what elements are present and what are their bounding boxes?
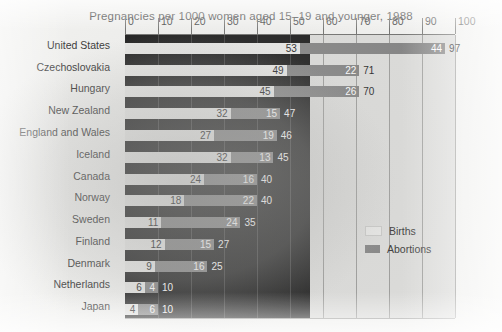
value-abortions: 6 (138, 303, 155, 316)
category-label-united-states: United States (47, 39, 110, 51)
x-tick-label-80: 80 (389, 15, 404, 27)
gridline-90 (422, 35, 423, 318)
bar-england-and-wales: 2719 (125, 130, 277, 141)
category-label-new-zealand: New Zealand (48, 104, 110, 116)
bar-japan: 46 (125, 304, 158, 315)
bar-iceland: 3213 (125, 152, 274, 163)
legend-label-births: Births (389, 225, 416, 237)
category-label-canada: Canada (73, 170, 110, 182)
category-label-finland: Finland (76, 235, 110, 247)
value-abortions: 22 (287, 64, 357, 77)
x-axis-bottom-line (125, 318, 455, 319)
value-total: 10 (162, 281, 173, 294)
value-abortions: 13 (231, 151, 271, 164)
value-total: 40 (261, 173, 272, 186)
value-births: 45 (125, 85, 271, 98)
value-births: 49 (125, 64, 284, 77)
value-abortions: 44 (300, 42, 442, 55)
value-births: 27 (125, 129, 211, 142)
bar-czechoslovakia: 4922 (125, 65, 359, 76)
value-births: 4 (125, 303, 135, 316)
chart-figure: Pregnancies per 1000 women aged 15–19 an… (0, 0, 502, 332)
value-total: 27 (218, 238, 229, 251)
value-births: 18 (125, 194, 181, 207)
gridline-50 (290, 35, 291, 318)
value-abortions: 26 (274, 85, 357, 98)
value-abortions: 24 (161, 216, 237, 229)
legend-swatch-births (365, 226, 382, 236)
value-births: 24 (125, 173, 201, 186)
bar-sweden: 1124 (125, 217, 241, 228)
value-births: 53 (125, 42, 297, 55)
value-total: 46 (281, 129, 292, 142)
value-births: 32 (125, 151, 228, 164)
legend-item-births[interactable]: Births (365, 225, 431, 237)
value-births: 6 (125, 281, 142, 294)
x-tick-label-20: 20 (191, 15, 206, 27)
value-births: 11 (125, 216, 158, 229)
category-label-england-and-wales: England and Wales (19, 126, 110, 138)
value-abortions: 19 (214, 129, 274, 142)
plot-area: 0102030405060708090100 53449749227145267… (125, 35, 455, 318)
legend-item-abortions[interactable]: Abortions (365, 243, 431, 255)
value-births: 32 (125, 107, 228, 120)
bar-finland: 1215 (125, 239, 214, 250)
value-abortions: 16 (155, 260, 205, 273)
bar-canada: 2416 (125, 174, 257, 185)
value-abortions: 16 (204, 173, 254, 186)
x-tick-label-50: 50 (290, 15, 305, 27)
bar-denmark: 916 (125, 261, 208, 272)
value-total: 10 (162, 303, 173, 316)
legend-label-abortions: Abortions (387, 243, 431, 255)
value-total: 25 (212, 260, 223, 273)
value-births: 12 (125, 238, 162, 251)
gridline-60 (323, 35, 324, 318)
value-total: 40 (261, 194, 272, 207)
value-abortions: 15 (231, 107, 278, 120)
value-abortions: 15 (165, 238, 212, 251)
category-label-sweden: Sweden (72, 213, 110, 225)
bar-hungary: 4526 (125, 86, 359, 97)
value-total: 71 (363, 64, 374, 77)
gridline-40 (257, 35, 258, 318)
gridline-70 (356, 35, 357, 318)
category-axis-labels: United StatesCzechoslovakiaHungaryNew Ze… (0, 35, 120, 318)
category-label-japan: Japan (81, 300, 110, 312)
gridline-80 (389, 35, 390, 318)
bar-norway: 1822 (125, 195, 257, 206)
bar-new-zealand: 3215 (125, 108, 280, 119)
bar-netherlands: 64 (125, 282, 158, 293)
chart-legend: BirthsAbortions (365, 225, 431, 261)
value-total: 97 (449, 42, 460, 55)
value-abortions: 4 (145, 281, 155, 294)
bar-united-states: 5344 (125, 43, 445, 54)
value-total: 70 (363, 85, 374, 98)
gridline-100 (455, 35, 456, 318)
x-tick-label-10: 10 (158, 15, 173, 27)
category-label-hungary: Hungary (70, 82, 110, 94)
x-tick-label-60: 60 (323, 15, 338, 27)
x-tick-label-100: 100 (455, 15, 476, 27)
category-label-czechoslovakia: Czechoslovakia (36, 61, 110, 73)
x-tick-label-0: 0 (125, 15, 134, 27)
value-abortions: 22 (184, 194, 254, 207)
category-label-denmark: Denmark (67, 257, 110, 269)
value-total: 35 (245, 216, 256, 229)
category-label-iceland: Iceland (76, 148, 110, 160)
x-tick-label-30: 30 (224, 15, 239, 27)
legend-swatch-abortions (365, 245, 380, 253)
x-tick-label-70: 70 (356, 15, 371, 27)
value-births: 9 (125, 260, 152, 273)
value-total: 45 (278, 151, 289, 164)
x-tick-label-40: 40 (257, 15, 272, 27)
category-label-netherlands: Netherlands (53, 278, 110, 290)
category-label-norway: Norway (74, 191, 110, 203)
x-tick-label-90: 90 (422, 15, 437, 27)
value-total: 47 (284, 107, 295, 120)
